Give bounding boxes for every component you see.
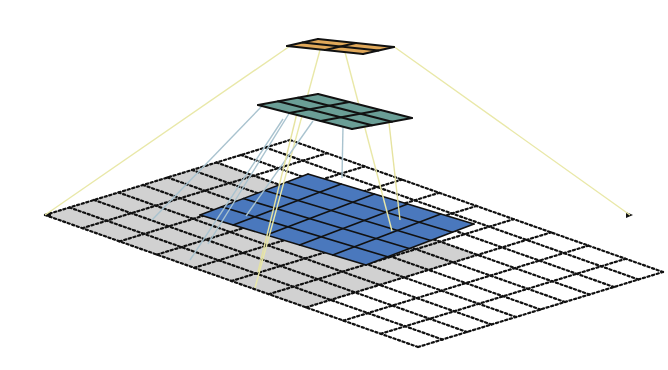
diagram-canvas — [0, 0, 668, 370]
receptive-field-diagram — [0, 0, 668, 370]
orange-feature-map — [287, 39, 394, 54]
blue-connector — [342, 126, 343, 178]
yellow-connector — [393, 46, 630, 215]
